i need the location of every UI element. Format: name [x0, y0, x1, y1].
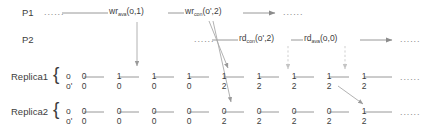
- replica2-trailing-ellipsis: ......: [400, 108, 420, 117]
- diagram-canvas: P1 ...... wrava(o,1) wrcon(o',2) ...... …: [0, 0, 433, 133]
- replica1-state-5: 1 2: [249, 71, 269, 91]
- operation-rd-con-args: (o',2): [255, 33, 274, 43]
- replica2-o-value-8: 1: [354, 106, 374, 116]
- operation-rd-con-subscript: con: [247, 38, 255, 44]
- p2-trailing-ellipsis: ......: [400, 35, 420, 44]
- p1-trailing-ellipsis: ......: [283, 8, 303, 17]
- replica2-state-8: 1 2: [354, 106, 374, 126]
- operation-wr-con-subscript: con: [194, 11, 202, 17]
- replica2-state-4: 0 2: [214, 106, 234, 126]
- replica1-state-0: 0 0: [74, 71, 94, 91]
- replica2-label: Replica2: [11, 107, 48, 117]
- operation-wr-con-args: (o',2): [202, 6, 221, 16]
- operation-wr-con: wrcon(o',2): [185, 7, 222, 16]
- replica1-object-names: o o': [66, 71, 72, 91]
- replica2-state-1: 0 0: [109, 106, 129, 126]
- replica2-object-names: o o': [66, 106, 72, 126]
- replica2-oprime-value-4: 2: [214, 116, 234, 126]
- replica1-o-value-8: 1: [354, 71, 374, 81]
- operation-rd-ava: rdava(o,0): [304, 34, 337, 43]
- replica1-trailing-ellipsis: ......: [400, 73, 420, 82]
- replica1-o-value-6: 1: [284, 71, 304, 81]
- operation-rd-ava-args: (o,0): [320, 33, 337, 43]
- replica2-o-value-7: 0: [319, 106, 339, 116]
- replica1-oprime-value-4: 2: [214, 81, 234, 91]
- replica1-state-6: 1 2: [284, 71, 304, 91]
- operation-wr-con-name: wr: [185, 6, 194, 16]
- replica1-state-8: 1 2: [354, 71, 374, 91]
- operation-rd-ava-subscript: ava: [312, 38, 320, 44]
- replica2-state-5: 0 2: [249, 106, 269, 126]
- replica1-state-2: 1 0: [144, 71, 164, 91]
- replica1-oprime-value-7: 2: [319, 81, 339, 91]
- replica2-oprime-value-7: 2: [319, 116, 339, 126]
- operation-rd-con-name: rd: [239, 33, 247, 43]
- replica2-oprime-value-2: 0: [144, 116, 164, 126]
- replica2-o-value-3: 0: [179, 106, 199, 116]
- replica1-o-value-1: 1: [109, 71, 129, 81]
- replica1-oprime-value-0: 0: [74, 81, 94, 91]
- replica2-state-2: 0 0: [144, 106, 164, 126]
- replica1-o-value-2: 1: [144, 71, 164, 81]
- replica1-state-3: 1 0: [179, 71, 199, 91]
- replica1-object-o: o: [66, 71, 72, 81]
- replica1-o-value-4: 1: [214, 71, 234, 81]
- replica2-o-value-0: 0: [74, 106, 94, 116]
- process-label-p2: P2: [22, 35, 34, 45]
- replica1-o-value-3: 1: [179, 71, 199, 81]
- replica1-o-value-0: 0: [74, 71, 94, 81]
- operation-wr-ava-name: wr: [109, 6, 118, 16]
- replica1-oprime-value-8: 2: [354, 81, 374, 91]
- p1-leading-ellipsis: ......: [44, 8, 64, 17]
- replica2-o-value-5: 0: [249, 106, 269, 116]
- operation-wr-ava: wrava(o,1): [109, 7, 144, 16]
- replica2-o-value-4: 0: [214, 106, 234, 116]
- replica2-object-oprime: o': [66, 116, 72, 126]
- replica1-state-1: 1 0: [109, 71, 129, 91]
- replica1-oprime-value-2: 0: [144, 81, 164, 91]
- replica2-state-7: 0 2: [319, 106, 339, 126]
- replica1-o-value-7: 1: [319, 71, 339, 81]
- replica1-object-oprime: o': [66, 81, 72, 91]
- replica1-oprime-value-5: 2: [249, 81, 269, 91]
- replica2-state-6: 0 2: [284, 106, 304, 126]
- replica1-o-value-5: 1: [249, 71, 269, 81]
- replica2-oprime-value-6: 2: [284, 116, 304, 126]
- replica2-oprime-value-5: 2: [249, 116, 269, 126]
- replica2-oprime-value-1: 0: [109, 116, 129, 126]
- process-label-p1: P1: [22, 8, 34, 18]
- replica1-state-7: 1 2: [319, 71, 339, 91]
- replica2-object-o: o: [66, 106, 72, 116]
- replica1-state-4: 1 2: [214, 71, 234, 91]
- replica2-state-3: 0 0: [179, 106, 199, 126]
- replica2-oprime-value-8: 2: [354, 116, 374, 126]
- p2-leading-ellipsis: ......: [194, 35, 214, 44]
- replica2-oprime-value-0: 0: [74, 116, 94, 126]
- replica2-o-value-2: 0: [144, 106, 164, 116]
- replica1-oprime-value-3: 0: [179, 81, 199, 91]
- replica2-oprime-value-3: 0: [179, 116, 199, 126]
- replica2-o-value-1: 0: [109, 106, 129, 116]
- replica2-state-0: 0 0: [74, 106, 94, 126]
- replica1-label: Replica1: [11, 72, 48, 82]
- replica1-oprime-value-1: 0: [109, 81, 129, 91]
- replica1-brace: {: [53, 64, 59, 83]
- replica1-oprime-value-6: 2: [284, 81, 304, 91]
- operation-wr-ava-subscript: ava: [118, 11, 126, 17]
- replica2-brace: {: [53, 99, 59, 118]
- operation-rd-con: rdcon(o',2): [239, 34, 274, 43]
- operation-rd-ava-name: rd: [304, 33, 312, 43]
- replica2-o-value-6: 0: [284, 106, 304, 116]
- operation-wr-ava-args: (o,1): [126, 6, 143, 16]
